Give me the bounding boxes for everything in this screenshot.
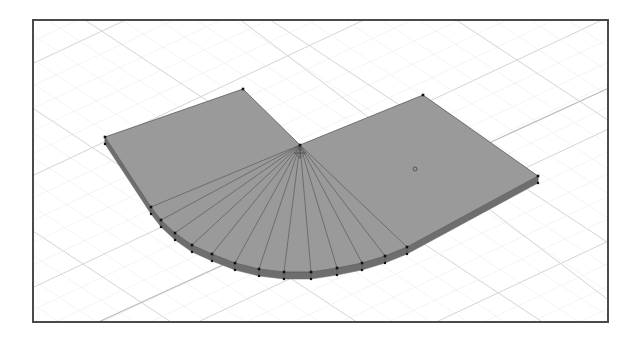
mesh-vertex[interactable] [336, 274, 338, 276]
mesh-vertex[interactable] [384, 262, 386, 264]
mesh-vertex[interactable] [283, 278, 285, 280]
mesh-vertex[interactable] [211, 260, 213, 262]
mesh-vertex[interactable] [258, 275, 260, 277]
mesh-vertex[interactable] [242, 88, 245, 91]
mesh-vertex[interactable] [406, 246, 409, 249]
mesh-vertex[interactable] [258, 268, 261, 271]
3d-viewport[interactable] [32, 19, 609, 323]
mesh-vertex[interactable] [211, 253, 214, 256]
mesh-vertex[interactable] [234, 269, 236, 271]
mesh-vertex[interactable] [150, 213, 152, 215]
mesh-vertex[interactable] [160, 226, 162, 228]
mesh-vertex[interactable] [361, 262, 364, 265]
mesh-vertex[interactable] [361, 269, 363, 271]
mesh-object[interactable] [104, 88, 540, 280]
mesh-vertex[interactable] [406, 253, 408, 255]
mesh-vertex[interactable] [336, 267, 339, 270]
mesh-vertex[interactable] [191, 251, 193, 253]
mesh-vertex[interactable] [104, 143, 106, 145]
mesh-vertex[interactable] [174, 232, 177, 235]
mesh-vertex[interactable] [174, 239, 176, 241]
mesh-vertex[interactable] [310, 271, 313, 274]
mesh-vertex[interactable] [160, 219, 163, 222]
mesh-vertex[interactable] [299, 144, 302, 147]
mesh-vertex[interactable] [537, 182, 539, 184]
mesh-vertex[interactable] [150, 206, 153, 209]
viewport-scene[interactable] [34, 21, 609, 323]
mesh-vertex[interactable] [104, 136, 107, 139]
mesh-vertex[interactable] [283, 271, 286, 274]
mesh-vertex[interactable] [422, 94, 425, 97]
mesh-vertex[interactable] [234, 262, 237, 265]
mesh-vertex[interactable] [191, 244, 194, 247]
mesh-vertex[interactable] [384, 255, 387, 258]
mesh-vertex[interactable] [310, 278, 312, 280]
mesh-vertex[interactable] [537, 175, 540, 178]
mesh-top-face[interactable] [105, 89, 538, 272]
